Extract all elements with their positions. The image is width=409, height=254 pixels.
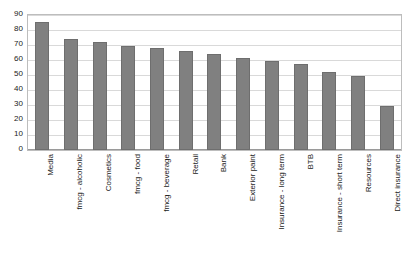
bar-slot	[171, 15, 200, 150]
y-axis-tick-label: 60	[14, 55, 23, 63]
y-axis-tick-label: 50	[14, 70, 23, 78]
x-axis-tick-label: Bank	[219, 154, 228, 172]
y-axis-tick-label: 70	[14, 40, 23, 48]
y-axis-tick-label: 40	[14, 85, 23, 93]
x-axis-tick-label: Insurance - short term	[334, 154, 343, 232]
bar[interactable]	[150, 48, 164, 150]
x-axis-tick-label: fmcg - food	[132, 154, 141, 194]
bar[interactable]	[236, 58, 250, 150]
x-axis: Mediafmcg - alcoholicCosmeticsfmcg - foo…	[27, 152, 402, 252]
x-axis-tick-slot: Resources	[344, 152, 373, 252]
x-axis-tick-label: Direct insurance	[392, 154, 401, 212]
bar[interactable]	[322, 72, 336, 150]
y-axis-tick-label: 90	[14, 10, 23, 18]
x-axis-tick-label: fmcg - alcoholic	[75, 154, 84, 210]
x-axis-tick-label: Cosmetics	[104, 154, 113, 191]
bar[interactable]	[380, 106, 394, 150]
bar-slot	[143, 15, 172, 150]
bar-slot	[200, 15, 229, 150]
bar[interactable]	[35, 22, 49, 150]
x-axis-tick-label: BTB	[306, 154, 315, 170]
plot-area	[27, 14, 402, 151]
y-axis-tick-label: 20	[14, 115, 23, 123]
bar-slot	[229, 15, 258, 150]
x-axis-tick-slot: fmcg - alcoholic	[56, 152, 85, 252]
bar-slot	[372, 15, 401, 150]
x-axis-tick-slot: BTB	[287, 152, 316, 252]
bar[interactable]	[64, 39, 78, 150]
x-axis-tick-slot: Media	[27, 152, 56, 252]
bar-slot	[344, 15, 373, 150]
bar-slot	[258, 15, 287, 150]
bar[interactable]	[121, 46, 135, 150]
bar[interactable]	[207, 54, 221, 150]
x-axis-tick-slot: Cosmetics	[85, 152, 114, 252]
x-axis-tick-label: Insurance - long term	[277, 154, 286, 230]
bar-slot	[315, 15, 344, 150]
x-axis-tick-label: Media	[46, 154, 55, 176]
bar-slot	[114, 15, 143, 150]
bar-slot	[286, 15, 315, 150]
y-axis-tick-label: 0	[19, 145, 23, 153]
x-axis-tick-label: Resources	[363, 154, 372, 192]
bar[interactable]	[351, 76, 365, 150]
y-axis-tick-label: 30	[14, 100, 23, 108]
x-axis-tick-slot: fmcg - food	[114, 152, 143, 252]
bars-layer	[28, 15, 401, 150]
x-axis-tick-slot: Insurance - short term	[315, 152, 344, 252]
x-axis-tick-slot: fmcg - beverage	[142, 152, 171, 252]
x-axis-tick-slot: Bank	[200, 152, 229, 252]
y-axis-tick-label: 10	[14, 130, 23, 138]
y-axis: 9080706050403020100	[0, 0, 26, 160]
x-axis-tick-label: fmcg - beverage	[161, 154, 170, 212]
x-axis-tick-slot: Direct insurance	[373, 152, 402, 252]
bar-slot	[57, 15, 86, 150]
bar-slot	[28, 15, 57, 150]
x-axis-tick-slot: Retail	[171, 152, 200, 252]
bar-chart: 9080706050403020100 Mediafmcg - alcoholi…	[0, 0, 409, 254]
bar[interactable]	[265, 61, 279, 150]
x-axis-tick-label: Exterior paint	[248, 154, 257, 201]
bar-slot	[85, 15, 114, 150]
x-axis-tick-slot: Exterior paint	[229, 152, 258, 252]
bar[interactable]	[179, 51, 193, 150]
bar[interactable]	[294, 64, 308, 150]
x-axis-tick-slot: Insurance - long term	[258, 152, 287, 252]
y-axis-tick-label: 80	[14, 25, 23, 33]
bar[interactable]	[93, 42, 107, 150]
x-axis-tick-label: Retail	[190, 154, 199, 174]
